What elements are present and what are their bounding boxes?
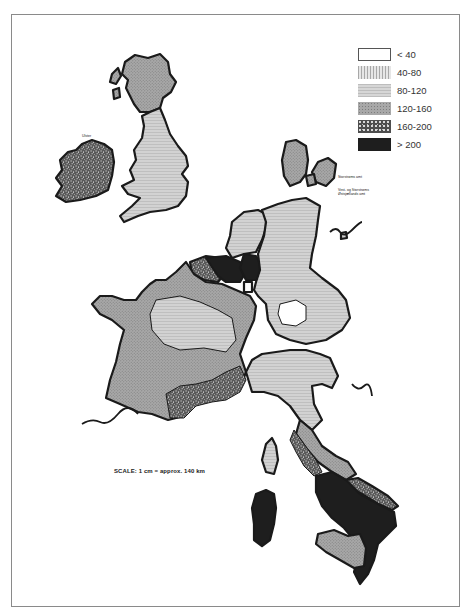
legend-label: < 40 [397, 49, 416, 60]
scale-label: SCALE: 1 cm = approx. 140 km [114, 468, 205, 474]
coast-yugoslavia [352, 384, 372, 396]
region-munich[interactable] [278, 300, 306, 326]
legend-item-80-120: 80-120 [358, 82, 432, 99]
legend-label: 40-80 [397, 67, 421, 78]
legend-swatch-120-160 [358, 102, 391, 115]
annotation-denmark-2b: Østsjællands amt [338, 192, 365, 196]
region-hebrides-2 [113, 88, 120, 99]
annotation-ireland-north: Ulster [82, 134, 91, 138]
legend-item-120-160: 120-160 [358, 100, 432, 117]
legend-swatch-40-80 [358, 66, 391, 79]
region-italy-north[interactable] [246, 350, 338, 430]
region-scotland[interactable] [122, 54, 176, 112]
legend-label: 120-160 [397, 103, 432, 114]
legend-swatch-160-200 [358, 120, 391, 133]
countries [56, 54, 398, 584]
region-ireland[interactable] [56, 140, 114, 202]
legend-item-lt40: < 40 [358, 46, 432, 63]
legend-item-160-200: 160-200 [358, 118, 432, 135]
region-denmark-jutland[interactable] [282, 140, 308, 186]
legend: < 40 40-80 80-120 120-160 160-200 > 200 [358, 46, 432, 154]
region-sicily[interactable] [316, 530, 366, 568]
legend-swatch-80-120 [358, 84, 391, 97]
legend-label: 160-200 [397, 121, 432, 132]
legend-item-gt200: > 200 [358, 136, 432, 153]
legend-item-40-80: 40-80 [358, 64, 432, 81]
region-corsica[interactable] [262, 438, 278, 474]
legend-label: 80-120 [397, 85, 427, 96]
region-denmark-funen [306, 174, 316, 186]
region-england-wales[interactable] [120, 108, 188, 222]
region-luxembourg[interactable] [244, 282, 252, 292]
region-sardinia[interactable] [252, 490, 276, 546]
coast-iberia [82, 408, 138, 424]
legend-swatch-lt40 [358, 48, 391, 61]
legend-swatch-gt200 [358, 138, 391, 151]
legend-label: > 200 [397, 139, 421, 150]
region-hebrides [110, 68, 121, 84]
annotation-denmark-1: Storstrøms amt [338, 175, 362, 179]
